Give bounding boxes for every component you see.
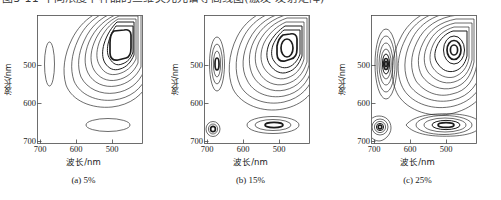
panel-caption-c: (c) 25% [334, 175, 501, 186]
contour-plot-b [167, 9, 334, 149]
figure-row: 波长/nm 500 600 700 700 600 500 波长/nm (a) … [0, 9, 501, 200]
panel-caption-a: (a) 5% [0, 175, 167, 186]
top-caption-text: 图3-11 不同浓度下样品的三维荧光光谱等高线图(激发-发射矩阵) [2, 0, 325, 5]
chart-panel-b: 波长/nm 500 600 700 700 600 500 波长/nm (b) … [167, 9, 334, 200]
contour-plot-a [0, 9, 167, 149]
chart-panel-a: 波长/nm 500 600 700 700 600 500 波长/nm (a) … [0, 9, 167, 200]
x-axis-title-b: 波长/nm [167, 157, 334, 167]
chart-panel-c: 波长/nm 500 600 700 700 600 500 波长/nm (c) … [334, 9, 501, 200]
panel-caption-b: (b) 15% [167, 175, 334, 186]
x-axis-title-a: 波长/nm [0, 157, 167, 167]
x-axis-title-c: 波长/nm [334, 157, 501, 167]
top-caption-strip: 图3-11 不同浓度下样品的三维荧光光谱等高线图(激发-发射矩阵) [0, 0, 501, 9]
contour-plot-c [334, 9, 501, 149]
